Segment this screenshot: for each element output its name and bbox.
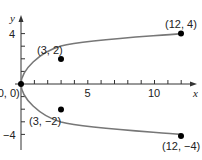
y-tick-label-4: 4 [9,28,15,40]
x-tick-label-10: 10 [148,87,160,99]
point-3-2 [58,56,64,62]
x-axis-label: x [192,87,198,99]
x-tick-label-5: 5 [85,87,91,99]
x-axis-arrow-icon [190,82,197,87]
y-axis-arrow-icon [19,15,24,22]
point-3-neg2 [58,107,64,113]
point-12-neg4 [178,133,184,139]
upper-branch-curve [21,34,181,84]
y-axis-label: y [9,12,15,24]
label-12-neg4: (12, −4) [162,140,200,152]
label-3-2: (3, 2) [37,44,63,56]
label-origin: (0, 0) [0,87,20,99]
x-ticks [34,80,181,84]
label-3-neg2: (3, −2) [29,115,61,127]
label-12-4: (12, 4) [165,18,197,30]
parabola-chart: y x 5 10 4 −4 (0, 0) (3 [0,0,202,160]
y-tick-label-neg4: −4 [3,129,16,141]
point-12-4 [178,31,184,37]
